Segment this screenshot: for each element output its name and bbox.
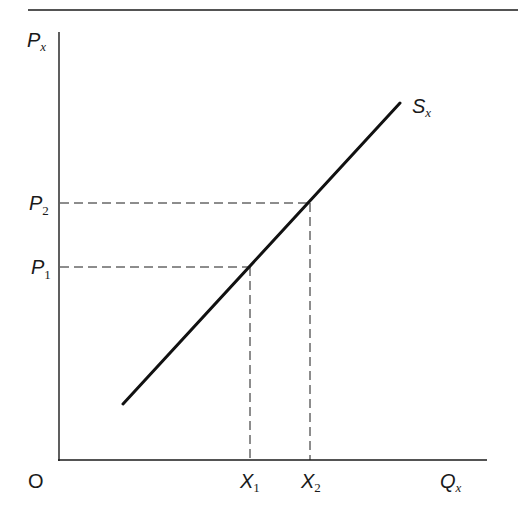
p2-label: P2: [29, 192, 49, 218]
y-axis-label: Px: [27, 29, 46, 54]
supply-curve: [123, 103, 400, 404]
supply-curve-label: Sx: [412, 95, 431, 120]
origin-label: O: [28, 470, 44, 492]
x-axis-label: Qx: [440, 470, 462, 495]
x2-label: X2: [300, 470, 321, 495]
x1-label: X1: [239, 470, 260, 495]
p1-label: P1: [31, 256, 51, 282]
supply-diagram: Px P2 P1 Sx O X1 X2 Qx: [0, 0, 518, 511]
